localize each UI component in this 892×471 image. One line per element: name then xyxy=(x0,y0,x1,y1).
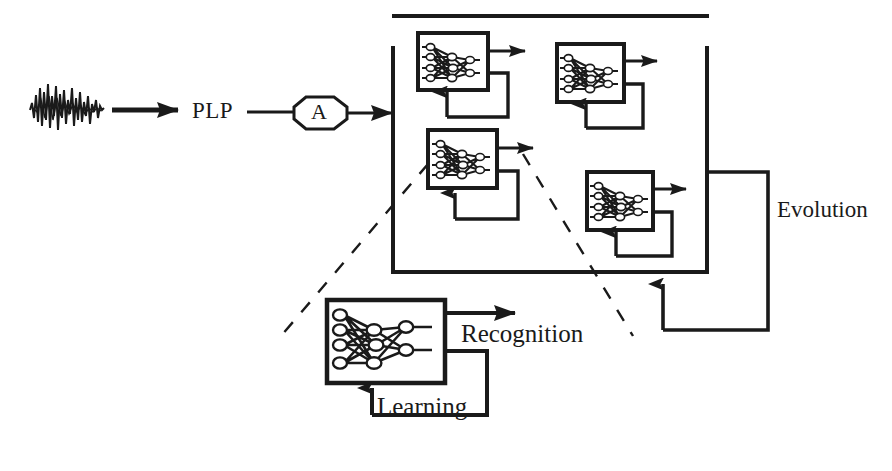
label-node-a: A xyxy=(311,99,327,125)
detail-network-box xyxy=(327,300,445,383)
speech-waveform-icon xyxy=(30,84,104,130)
network-box-4 xyxy=(587,172,686,256)
network-box-1 xyxy=(418,33,525,117)
network-box-3 xyxy=(428,130,533,219)
label-recognition: Recognition xyxy=(461,320,583,348)
evolution-loop xyxy=(663,172,768,330)
diagram-canvas: PLP A Evolution Recognition Learning xyxy=(0,0,892,471)
network-box-2 xyxy=(557,44,657,128)
label-learning: Learning xyxy=(377,393,467,421)
label-evolution: Evolution xyxy=(777,197,868,223)
label-plp: PLP xyxy=(192,98,233,124)
